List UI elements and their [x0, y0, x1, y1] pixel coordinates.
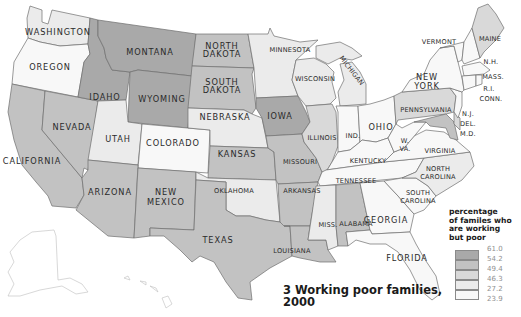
label-delaware: DEL.: [460, 120, 476, 128]
legend-swatch-4: [455, 290, 479, 300]
label-colorado: COLORADO: [146, 138, 200, 148]
label-new-york-2: YORK: [413, 81, 440, 91]
label-arizona: ARIZONA: [88, 187, 132, 197]
label-wyoming: WYOMING: [138, 94, 185, 104]
label-south-carolina-1: SOUTH: [406, 189, 430, 197]
label-new-mexico-1: NEW: [155, 187, 177, 197]
us-map: WASHINGTON OREGON CALIFORNIA NEVADA IDAH…: [0, 0, 521, 317]
label-west-virginia-1: W.: [401, 137, 409, 145]
legend-swatch-1: [455, 260, 479, 270]
label-rhode-island: R.I.: [483, 85, 494, 93]
map-title-line2: 2000: [283, 296, 442, 308]
label-tennessee: TENNESSEE: [335, 177, 377, 185]
label-massachusetts: MASS.: [482, 73, 504, 81]
label-louisiana: LOUISIANA: [273, 247, 311, 255]
label-north-carolina-1: NORTH: [426, 165, 450, 173]
legend-swatch-2: [455, 270, 479, 280]
label-west-virginia-2: VA.: [399, 145, 410, 153]
legend-title-line: but poor: [449, 234, 521, 243]
state-alaska[interactable]: [8, 230, 88, 296]
state-arizona[interactable]: [76, 160, 138, 238]
legend-break: 23.9: [487, 295, 503, 303]
label-texas: TEXAS: [201, 235, 233, 245]
state-colorado[interactable]: [138, 124, 210, 173]
legend-break: 27.2: [487, 285, 503, 293]
label-georgia: GEORGIA: [364, 215, 408, 225]
label-pennsylvania: PENNSYLVANIA: [400, 106, 452, 114]
label-oklahoma: OKLAHOMA: [214, 187, 254, 195]
label-florida: FLORIDA: [386, 253, 428, 263]
label-oregon: OREGON: [29, 62, 71, 72]
label-ohio: OHIO: [368, 122, 393, 132]
state-rhode-island[interactable]: [476, 75, 482, 86]
label-south-carolina-2: CAROLINA: [400, 197, 436, 205]
state-connecticut[interactable]: [462, 75, 476, 90]
label-north-dakota-2: DAKOTA: [203, 49, 242, 59]
legend-break: 54.2: [487, 255, 503, 263]
label-connecticut: CONN.: [480, 95, 503, 103]
legend-break: 61.0: [487, 245, 503, 253]
label-north-carolina-2: CAROLINA: [420, 173, 456, 181]
label-kentucky: KENTUCKY: [350, 157, 387, 165]
legend-break: 46.3: [487, 275, 503, 283]
label-arkansas: ARKANSAS: [283, 187, 320, 195]
label-mississippi: MISS.: [318, 221, 337, 229]
label-new-hampshire: N.H.: [484, 58, 499, 66]
label-nevada: NEVADA: [52, 122, 91, 132]
label-utah: UTAH: [105, 134, 131, 144]
state-hawaii[interactable]: [124, 276, 172, 308]
legend: percentage of familes who are working bu…: [453, 208, 521, 309]
legend-swatch-0: [455, 250, 479, 260]
label-maine: MAINE: [479, 35, 501, 43]
label-iowa: IOWA: [267, 111, 293, 121]
label-montana: MONTANA: [126, 47, 174, 57]
label-indiana: IND.: [346, 132, 361, 140]
legend-body: 61.0 54.2 49.4 46.3 27.2 23.9: [453, 247, 521, 309]
state-washington[interactable]: [27, 6, 90, 46]
legend-swatch-3: [455, 280, 479, 290]
legend-title: percentage of familes who are working bu…: [449, 208, 521, 242]
label-idaho: IDAHO: [89, 92, 120, 102]
label-vermont: VERMONT: [422, 38, 457, 46]
label-virginia: VIRGINIA: [424, 147, 455, 155]
label-maryland: M.D.: [460, 130, 476, 138]
label-new-mexico-2: MEXICO: [147, 197, 185, 207]
map-title: 3 Working poor families, 2000: [283, 284, 442, 308]
label-minnesota: MINNESOTA: [270, 46, 311, 54]
legend-break: 49.4: [487, 265, 503, 273]
label-kansas: KANSAS: [218, 149, 257, 159]
label-washington: WASHINGTON: [25, 27, 91, 37]
label-south-dakota-2: DAKOTA: [203, 85, 242, 95]
label-nebraska: NEBRASKA: [199, 112, 250, 122]
label-missouri: MISSOURI: [283, 158, 317, 166]
label-new-jersey: N.J.: [462, 110, 474, 118]
label-illinois: ILLINOIS: [307, 134, 336, 142]
label-california: CALIFORNIA: [3, 156, 61, 166]
label-wisconsin: WISCONSIN: [295, 75, 335, 83]
